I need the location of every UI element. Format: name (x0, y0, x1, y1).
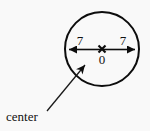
center-callout-line (47, 65, 85, 111)
figure-container: 7 7 0 center (0, 0, 150, 131)
center-annotation-label: center (6, 109, 38, 124)
right-radius-label: 7 (120, 33, 127, 48)
circle-radius-diagram: 7 7 0 center (0, 0, 150, 131)
left-radius-label: 7 (77, 33, 84, 48)
center-point-label: 0 (99, 52, 106, 67)
